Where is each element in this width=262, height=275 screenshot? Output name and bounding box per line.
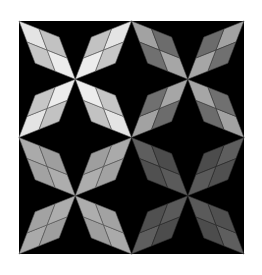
quilt-pattern-canvas [0, 0, 262, 275]
